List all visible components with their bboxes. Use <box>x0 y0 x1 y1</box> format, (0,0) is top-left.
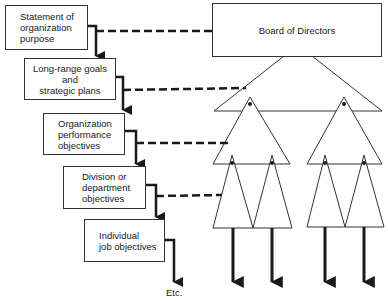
board-label: Board of Directors <box>259 25 336 36</box>
org-performance-box: Organization performance objectives <box>43 113 125 155</box>
purpose-box: Statement of organization purpose <box>5 5 88 50</box>
org-triangles <box>213 45 384 228</box>
down-arrow-icons <box>233 227 364 282</box>
etc-label: Etc. <box>166 287 182 298</box>
long-range-goals-box: Long-range goals and strategic plans <box>24 58 116 100</box>
board-of-directors-box: Board of Directors <box>212 3 382 57</box>
division-objectives-box: Division or department objectives <box>63 166 146 209</box>
individual-objectives-box: Individual job objectives <box>84 219 165 262</box>
